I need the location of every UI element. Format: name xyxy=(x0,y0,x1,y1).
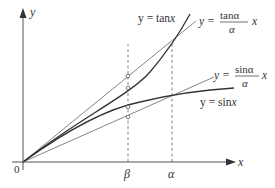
sin-alpha-over-alpha-line xyxy=(23,77,214,162)
x-axis-arrow-icon xyxy=(226,159,236,166)
svg-text:y =: y = xyxy=(213,69,230,82)
tan-curve xyxy=(23,14,190,162)
sin-line-label: y = sinα α x xyxy=(213,63,268,89)
beta-label: β xyxy=(123,167,130,181)
tan-curve-label: y = tanx xyxy=(138,12,176,25)
svg-text:y =: y = xyxy=(198,15,215,28)
diagram: y x 0 β α y = tanx y = tanα α x y = sinα… xyxy=(0,0,275,188)
y-axis-arrow-icon xyxy=(20,8,27,18)
svg-text:x: x xyxy=(261,69,268,81)
sin-curve-label: y = sinx xyxy=(200,96,237,109)
svg-text:α: α xyxy=(229,23,235,35)
x-axis-label: x xyxy=(237,155,244,169)
tan-line-label: y = tanα α x xyxy=(198,9,258,35)
origin-label: 0 xyxy=(14,163,20,175)
svg-text:sinα: sinα xyxy=(235,63,254,75)
y-axis-label: y xyxy=(29,5,36,19)
tan-alpha-over-alpha-line xyxy=(23,21,196,162)
svg-text:tanα: tanα xyxy=(220,9,239,21)
svg-text:x: x xyxy=(251,15,258,27)
alpha-label: α xyxy=(168,167,175,181)
svg-text:α: α xyxy=(242,77,248,89)
